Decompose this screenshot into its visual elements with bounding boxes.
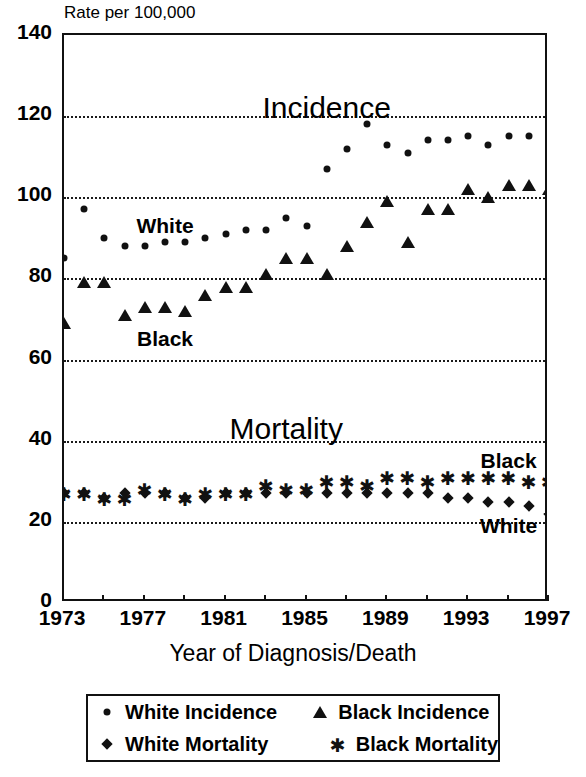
x-tick-mark — [345, 595, 347, 601]
gridline — [64, 278, 545, 280]
data-point — [523, 500, 534, 511]
data-point — [444, 137, 451, 144]
x-tick-mark — [62, 595, 64, 601]
y-tick-label: 80 — [0, 263, 52, 287]
data-point — [461, 183, 475, 195]
x-tick-mark — [305, 595, 307, 601]
data-point — [279, 252, 293, 264]
data-point — [222, 230, 229, 237]
x-tick-mark — [143, 595, 145, 601]
data-point — [525, 133, 532, 140]
data-point — [118, 309, 132, 321]
x-tick-mark — [507, 595, 509, 601]
data-point: ✱ — [400, 474, 416, 482]
legend-item-white-mortality: White Mortality — [98, 733, 268, 756]
data-point — [404, 149, 411, 156]
data-point: ✱ — [359, 482, 375, 490]
data-point: ✱ — [218, 490, 234, 498]
data-point — [421, 203, 435, 215]
data-point — [263, 226, 270, 233]
data-point — [178, 305, 192, 317]
y-tick-label: 40 — [0, 426, 52, 450]
data-point — [283, 214, 290, 221]
data-point — [424, 137, 431, 144]
data-point: ✱ — [278, 486, 294, 494]
legend: White Incidence Black Incidence White Mo… — [86, 694, 500, 762]
plot-label: Mortality — [230, 412, 343, 446]
x-tick-mark — [426, 595, 428, 601]
data-point — [522, 179, 536, 191]
data-point — [303, 222, 310, 229]
data-point — [242, 226, 249, 233]
y-tick-label: 100 — [0, 182, 52, 206]
legend-label: White Mortality — [125, 733, 268, 756]
data-point — [320, 268, 334, 280]
data-point — [503, 496, 514, 507]
data-point — [401, 236, 415, 248]
data-point: ✱ — [521, 478, 537, 486]
data-point: ✱ — [480, 474, 496, 482]
x-tick-mark — [224, 595, 226, 601]
plot-label: Incidence — [262, 91, 390, 125]
data-point — [343, 145, 350, 152]
y-tick-label: 120 — [0, 101, 52, 125]
y-axis-title: Rate per 100,000 — [64, 3, 195, 23]
data-point — [81, 206, 88, 213]
plot-label: White — [480, 514, 537, 538]
plot-inner: ✱✱✱✱✱✱✱✱✱✱✱✱✱✱✱✱✱✱✱✱✱✱✱✱✱ IncidenceMorta… — [64, 35, 545, 599]
data-point — [138, 301, 152, 313]
x-tick-mark — [547, 595, 549, 601]
data-point — [121, 242, 128, 249]
legend-label: Black Incidence — [338, 701, 489, 724]
data-point: ✱ — [96, 494, 112, 502]
data-point — [158, 301, 172, 313]
data-point — [300, 252, 314, 264]
data-point — [380, 195, 394, 207]
data-point — [340, 240, 354, 252]
legend-item-black-incidence: Black Incidence — [311, 701, 489, 724]
triangle-icon — [311, 703, 329, 721]
data-point — [360, 216, 374, 228]
diamond-icon — [98, 735, 116, 753]
gridline — [64, 522, 545, 524]
x-tick-mark — [183, 595, 185, 601]
x-tick-label: 1997 — [524, 606, 571, 630]
data-point — [462, 492, 473, 503]
data-point — [441, 203, 455, 215]
data-point — [101, 234, 108, 241]
gridline — [64, 360, 545, 362]
chart-root: Rate per 100,000 020406080100120140 ✱✱✱✱… — [0, 0, 586, 777]
legend-label: Black Mortality — [356, 733, 498, 756]
data-point: ✱ — [258, 482, 274, 490]
data-point — [382, 488, 393, 499]
x-tick-label: 1981 — [200, 606, 247, 630]
data-point — [542, 183, 545, 195]
data-point — [402, 488, 413, 499]
data-point — [97, 276, 111, 288]
data-point — [219, 281, 233, 293]
data-point — [502, 179, 516, 191]
data-point — [543, 508, 545, 519]
data-point — [485, 141, 492, 148]
legend-item-white-incidence: White Incidence — [98, 701, 277, 724]
legend-row-2: White Mortality ✱ Black Mortality — [88, 728, 498, 760]
dot-icon — [98, 703, 116, 721]
data-point — [384, 141, 391, 148]
data-point — [239, 281, 253, 293]
x-tick-label: 1985 — [281, 606, 328, 630]
asterisk-icon: ✱ — [329, 735, 347, 753]
y-tick-label: 60 — [0, 345, 52, 369]
data-point: ✱ — [420, 478, 436, 486]
data-point: ✱ — [137, 486, 153, 494]
plot-label: White — [136, 214, 193, 238]
data-point — [64, 255, 68, 262]
data-point: ✱ — [501, 474, 517, 482]
x-tick-mark — [264, 595, 266, 601]
data-point: ✱ — [64, 490, 72, 498]
legend-row-1: White Incidence Black Incidence — [88, 696, 498, 728]
data-point: ✱ — [197, 490, 213, 498]
data-point — [162, 238, 169, 245]
data-point — [465, 133, 472, 140]
data-point — [141, 242, 148, 249]
data-point — [202, 234, 209, 241]
